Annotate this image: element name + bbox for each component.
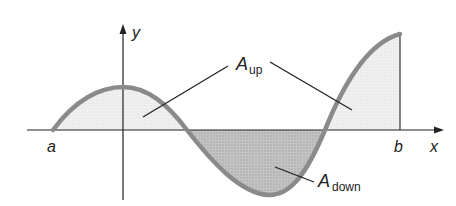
svg-text:A: A: [235, 54, 248, 74]
y-axis-arrow-icon: [120, 24, 127, 34]
region-up-right: [325, 34, 400, 130]
svg-text:up: up: [249, 63, 263, 77]
label-a-up: A up: [235, 54, 263, 77]
svg-text:down: down: [332, 180, 361, 194]
x-axis-arrow-icon: [434, 127, 444, 134]
x-axis-label: x: [429, 138, 439, 155]
lower-bound-label: a: [47, 138, 56, 155]
y-axis-label: y: [131, 24, 141, 41]
label-a-down: A down: [317, 171, 361, 194]
upper-bound-label: b: [394, 138, 403, 155]
leader-up-left: [143, 66, 228, 117]
svg-text:A: A: [317, 171, 330, 191]
region-down: [187, 130, 325, 195]
area-diagram: y x a b A up A down: [0, 0, 456, 206]
leader-up-right: [270, 62, 352, 110]
